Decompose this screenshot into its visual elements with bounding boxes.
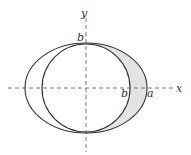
x-axis-label: x bbox=[176, 82, 183, 95]
ellipse-circle-diagram: y b b a x bbox=[0, 0, 191, 155]
y-axis-label: y bbox=[80, 7, 88, 20]
ellipse-a-label: a bbox=[147, 87, 154, 100]
top-b-label: b bbox=[77, 31, 84, 44]
circle-b-label: b bbox=[121, 87, 128, 100]
